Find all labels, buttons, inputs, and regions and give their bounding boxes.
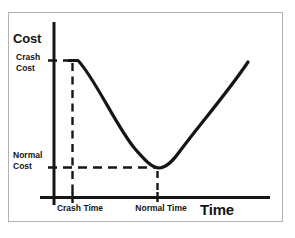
normal-time-label: Normal Time xyxy=(131,203,191,213)
cost-time-curve xyxy=(69,61,248,169)
cost-time-tradeoff-chart: Cost Crash Cost Normal Cost Crash Time N… xyxy=(0,0,295,238)
normal-cost-label: Normal Cost xyxy=(13,150,42,172)
x-axis-title: Time xyxy=(200,201,234,218)
crash-cost-label: Crash Cost xyxy=(16,52,40,74)
crash-time-label: Crash Time xyxy=(54,203,106,213)
y-axis-title: Cost xyxy=(13,31,41,46)
